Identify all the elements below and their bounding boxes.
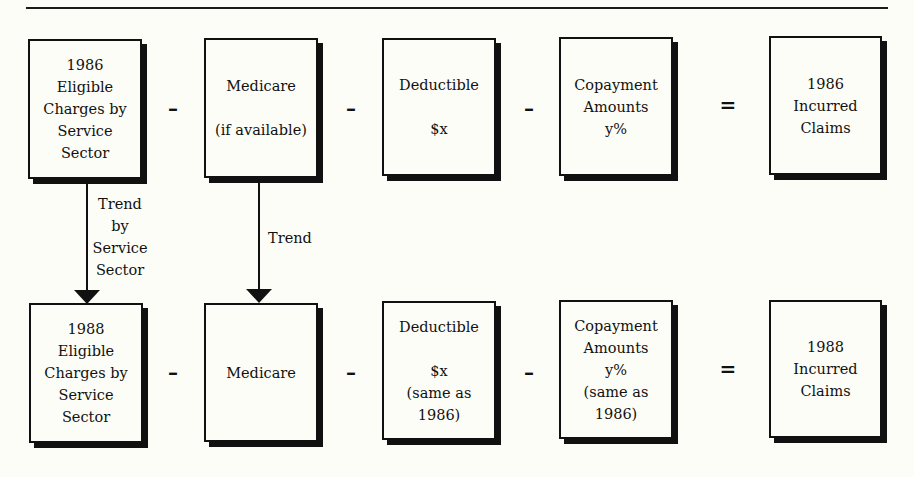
box-text: y% xyxy=(605,118,627,140)
box-text: Service xyxy=(59,384,114,406)
top-rule xyxy=(26,7,888,9)
minus-operator: – xyxy=(514,98,544,118)
box-text: Sector xyxy=(62,406,110,428)
box-1988-deductible: Deductible $x (same as 1986) xyxy=(382,301,496,440)
label-text: Service xyxy=(90,237,150,259)
box-text: Medicare xyxy=(226,75,296,97)
box-1986-eligible-charges: 1986 Eligible Charges by Service Sector xyxy=(28,39,142,179)
trend-by-sector-arrow-line xyxy=(86,184,88,292)
box-text: Charges by xyxy=(43,98,126,120)
equals-operator: = xyxy=(713,359,743,379)
box-text: Deductible xyxy=(399,74,479,96)
trend-label: Trend xyxy=(264,227,316,249)
equals-operator: = xyxy=(713,95,743,115)
box-1986-medicare: Medicare (if available) xyxy=(204,38,318,178)
box-text: Eligible xyxy=(57,76,113,98)
box-text: (same as xyxy=(584,381,649,403)
box-text: Deductible xyxy=(399,316,479,338)
box-text: Claims xyxy=(800,380,850,402)
box-text: y% xyxy=(605,359,627,381)
box-text: Amounts xyxy=(584,337,649,359)
box-1988-medicare: Medicare xyxy=(204,303,318,442)
label-text: Sector xyxy=(90,259,150,281)
minus-operator: – xyxy=(336,362,366,382)
box-text: 1986) xyxy=(418,404,461,426)
minus-operator: – xyxy=(158,98,188,118)
minus-operator: – xyxy=(336,98,366,118)
box-text: Claims xyxy=(800,117,850,139)
arrow-down-icon xyxy=(246,289,272,303)
box-text: Copayment xyxy=(574,315,657,337)
box-text: Medicare xyxy=(226,362,296,384)
box-1988-eligible-charges: 1988 Eligible Charges by Service Sector xyxy=(29,303,143,443)
box-text: $x xyxy=(430,118,447,140)
arrow-down-icon xyxy=(74,290,100,304)
box-text: $x xyxy=(430,360,447,382)
box-text: Charges by xyxy=(44,362,127,384)
box-text: 1986) xyxy=(595,403,638,425)
box-text: (if available) xyxy=(215,119,307,141)
box-1986-incurred-claims: 1986 Incurred Claims xyxy=(769,36,882,175)
box-text: Service xyxy=(58,120,113,142)
box-1988-incurred-claims: 1988 Incurred Claims xyxy=(769,300,882,438)
trend-arrow-line xyxy=(258,183,260,291)
label-text: by xyxy=(90,215,150,237)
box-1988-copayment: Copayment Amounts y% (same as 1986) xyxy=(559,300,673,439)
box-text: (same as xyxy=(407,382,472,404)
box-text: 1986 xyxy=(807,73,844,95)
box-1986-copayment: Copayment Amounts y% xyxy=(559,37,673,176)
minus-operator: – xyxy=(514,362,544,382)
minus-operator: – xyxy=(158,362,188,382)
box-1986-deductible: Deductible $x xyxy=(382,38,496,176)
box-text: Sector xyxy=(61,142,109,164)
box-text: 1988 xyxy=(68,318,105,340)
label-text: Trend xyxy=(90,193,150,215)
box-text: Eligible xyxy=(58,340,114,362)
label-text: Trend xyxy=(264,227,316,249)
box-text: Copayment xyxy=(574,74,657,96)
box-text: Incurred xyxy=(793,95,857,117)
trend-by-sector-label: Trend by Service Sector xyxy=(90,193,150,281)
box-text: 1988 xyxy=(807,336,844,358)
box-text: Amounts xyxy=(584,96,649,118)
box-text: Incurred xyxy=(793,358,857,380)
box-text: 1986 xyxy=(67,54,104,76)
